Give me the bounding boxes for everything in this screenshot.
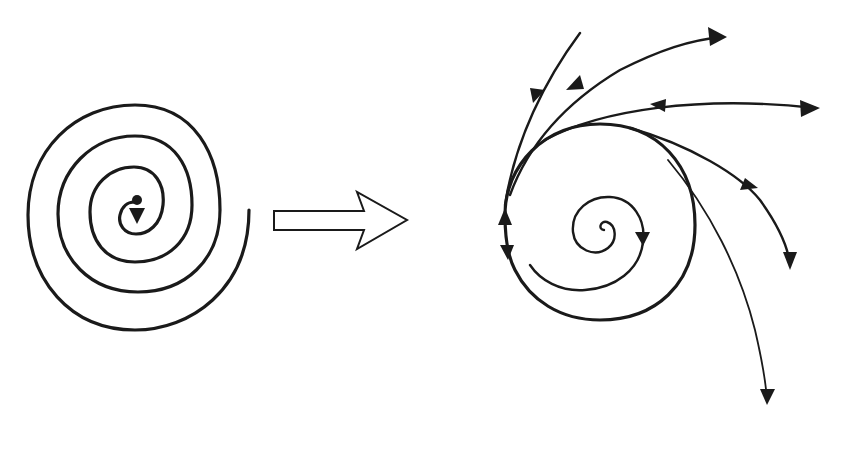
spiral-center-dot: [132, 195, 142, 205]
trajectory-right-2: [630, 128, 790, 265]
trajectory-top-2-in-arrow-icon: [566, 75, 584, 90]
diagram-canvas: points="735,262 730,276 745,272"/>: [0, 0, 846, 459]
trajectory-top-2-out-arrow-icon: [708, 27, 727, 46]
trajectory-right-1: [545, 103, 815, 140]
trajectory-right-2-out-arrow-icon: [783, 252, 797, 270]
cycle-arrow-up-icon: [498, 208, 512, 225]
transform-arrow: [274, 192, 407, 249]
trajectory-right-1-out-arrow-icon: [800, 100, 820, 117]
left-spiral: [28, 105, 249, 330]
hollow-right-arrow-icon: [274, 192, 407, 249]
trajectory-right-1-in-arrow-icon: [650, 99, 666, 112]
trajectory-right-3-out-arrow-icon: [760, 389, 775, 405]
cycle-arrow-down-icon: [500, 245, 514, 260]
limit-cycle-curve: [505, 124, 695, 320]
spiral-center-arrow-icon: [129, 208, 145, 224]
inner-spiral: [530, 197, 643, 290]
trajectory-right-2-in-arrow-icon: [740, 178, 758, 190]
limit-cycle-figure: points="735,262 730,276 745,272"/>: [498, 27, 820, 405]
trajectory-right-3: [668, 160, 767, 400]
inner-spiral-arrow-icon: [635, 232, 650, 246]
